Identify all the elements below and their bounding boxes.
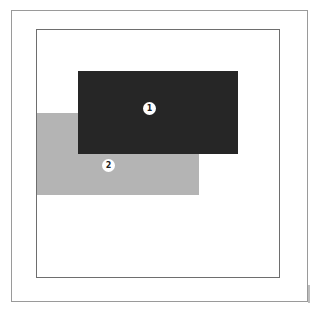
frame-shadow bbox=[308, 285, 310, 303]
layer-2-number-badge: 2 bbox=[102, 159, 115, 172]
layer-1-rectangle[interactable] bbox=[78, 71, 238, 154]
layer-1-number-badge: 1 bbox=[143, 102, 156, 115]
